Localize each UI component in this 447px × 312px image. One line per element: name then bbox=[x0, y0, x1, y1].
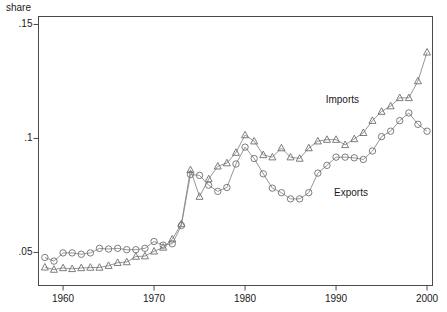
marker-triangle bbox=[60, 264, 67, 271]
series-line-exports bbox=[45, 113, 427, 261]
series-exports bbox=[42, 110, 431, 265]
x-tick-label-2: 1980 bbox=[225, 293, 265, 304]
marker-triangle bbox=[141, 252, 148, 259]
x-tick-label-1: 1970 bbox=[134, 293, 174, 304]
y-tick-label-0: .05 bbox=[7, 246, 33, 257]
marker-triangle bbox=[87, 264, 94, 271]
series-label-exports: Exports bbox=[334, 187, 368, 198]
marker-triangle bbox=[123, 258, 130, 265]
y-tick-label-1: .1 bbox=[7, 132, 33, 143]
marker-triangle bbox=[41, 263, 48, 270]
x-tick-label-0: 1960 bbox=[43, 293, 83, 304]
marker-circle bbox=[42, 254, 48, 260]
marker-triangle bbox=[278, 144, 285, 151]
plot-frame bbox=[39, 17, 433, 286]
plot-canvas bbox=[0, 0, 447, 312]
chart-figure: share .05.1.15 19601970198019902000 Impo… bbox=[0, 0, 447, 312]
y-tick-label-2: .15 bbox=[7, 18, 33, 29]
marker-triangle bbox=[323, 136, 330, 143]
marker-triangle bbox=[424, 48, 431, 55]
x-tick-label-4: 2000 bbox=[407, 293, 447, 304]
series-group bbox=[41, 48, 430, 272]
x-tick-label-3: 1990 bbox=[316, 293, 356, 304]
marker-triangle bbox=[378, 108, 385, 115]
series-label-imports: Imports bbox=[326, 94, 359, 105]
